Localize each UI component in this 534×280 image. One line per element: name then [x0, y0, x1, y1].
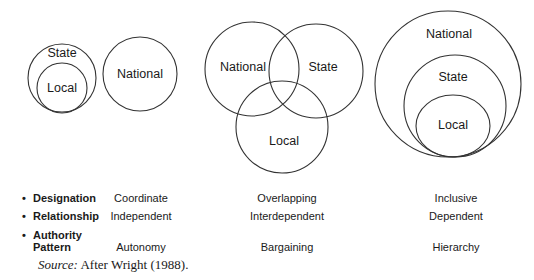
row-label-line2: Pattern — [33, 241, 71, 253]
local-label: Local — [269, 134, 299, 148]
national-label: National — [426, 27, 472, 41]
local-label: Local — [47, 81, 77, 95]
coordinate-relationship: Independent — [110, 210, 171, 222]
source-prefix: Source: — [38, 257, 78, 272]
row-label: Relationship — [33, 210, 99, 222]
national-label: National — [220, 60, 266, 74]
overlapping-authority: Bargaining — [261, 241, 314, 253]
bullet: • — [22, 229, 26, 241]
row-label-line1: Authority — [33, 229, 82, 241]
row-label: Authority Pattern — [33, 229, 82, 253]
inclusive-model: National State Local — [375, 11, 521, 157]
source-citation: Source: After Wright (1988). — [38, 257, 188, 273]
overlapping-model: National State Local — [205, 22, 363, 173]
inclusive-designation: Inclusive — [435, 192, 478, 204]
overlapping-relationship: Interdependent — [250, 210, 324, 222]
state-label: State — [308, 60, 337, 74]
inclusive-relationship: Dependent — [429, 210, 483, 222]
coordinate-model: State Local National — [28, 37, 177, 113]
source-text: After Wright (1988). — [78, 257, 188, 272]
state-label: State — [47, 46, 76, 60]
national-label: National — [117, 67, 163, 81]
overlapping-designation: Overlapping — [257, 192, 316, 204]
row-label: Designation — [33, 192, 96, 204]
coordinate-authority: Autonomy — [116, 241, 166, 253]
local-label: Local — [438, 118, 468, 132]
local-circle — [236, 81, 328, 173]
bullet: • — [22, 192, 26, 204]
coordinate-designation: Coordinate — [114, 192, 168, 204]
inclusive-authority: Hierarchy — [432, 241, 479, 253]
state-label: State — [438, 70, 467, 84]
bullet: • — [22, 210, 26, 222]
